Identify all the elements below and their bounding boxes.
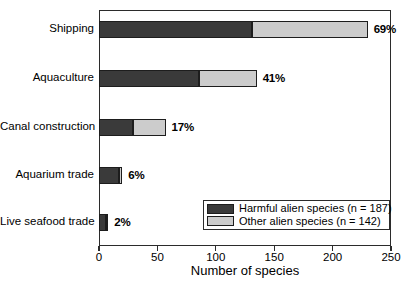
stacked-bar bbox=[99, 214, 108, 231]
bar-segment-harmful bbox=[99, 214, 106, 231]
bar-value-label: 6% bbox=[128, 169, 144, 181]
bar-row: 6% bbox=[99, 167, 391, 184]
x-axis-tick-label: 250 bbox=[381, 251, 400, 263]
legend: Harmful alien species (n = 187) Other al… bbox=[203, 200, 390, 230]
legend-swatch-harmful-icon bbox=[207, 204, 234, 214]
y-axis-label: Shipping bbox=[0, 22, 94, 34]
y-axis-label: Live seafood trade bbox=[0, 215, 94, 227]
legend-item-harmful: Harmful alien species (n = 187) bbox=[207, 203, 386, 215]
bar-segment-other bbox=[106, 214, 108, 231]
x-axis-tick-label: 100 bbox=[206, 251, 225, 263]
bar-segment-other bbox=[133, 119, 166, 136]
bar-segment-harmful bbox=[99, 21, 252, 38]
y-axis-label: Aquaculture bbox=[0, 71, 94, 83]
bar-value-label: 41% bbox=[263, 72, 285, 84]
legend-item-other: Other alien species (n = 142) bbox=[207, 216, 386, 228]
legend-label-other: Other alien species (n = 142) bbox=[239, 216, 381, 227]
y-axis-label: Aquarium trade bbox=[0, 168, 94, 180]
bar-segment-other bbox=[252, 21, 368, 38]
bar-row: 41% bbox=[99, 70, 391, 87]
stacked-bar bbox=[99, 167, 122, 184]
bar-value-label: 2% bbox=[114, 216, 130, 228]
x-axis-tick-label: 150 bbox=[265, 251, 284, 263]
stacked-bar-chart: Shipping69%Aquaculture41%Canal construct… bbox=[0, 0, 405, 282]
stacked-bar bbox=[99, 21, 368, 38]
y-axis-label: Canal construction bbox=[0, 120, 94, 132]
bar-segment-other bbox=[119, 167, 123, 184]
bar-row: 69% bbox=[99, 21, 391, 38]
x-axis-tick-label: 200 bbox=[323, 251, 342, 263]
x-axis-tick-label: 0 bbox=[96, 251, 102, 263]
bar-value-label: 17% bbox=[172, 121, 194, 133]
bar-value-label: 69% bbox=[374, 23, 396, 35]
stacked-bar bbox=[99, 70, 257, 87]
x-axis-tick-label: 50 bbox=[151, 251, 164, 263]
bar-segment-harmful bbox=[99, 119, 133, 136]
bar-segment-other bbox=[199, 70, 256, 87]
legend-swatch-other-icon bbox=[207, 216, 234, 226]
legend-label-harmful: Harmful alien species (n = 187) bbox=[239, 203, 392, 214]
bar-row: 17% bbox=[99, 119, 391, 136]
stacked-bar bbox=[99, 119, 166, 136]
bar-segment-harmful bbox=[99, 70, 199, 87]
x-axis-title: Number of species bbox=[99, 263, 391, 278]
bar-segment-harmful bbox=[99, 167, 119, 184]
